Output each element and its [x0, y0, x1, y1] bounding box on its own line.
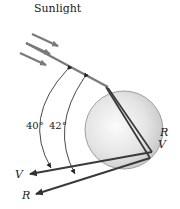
violet-back-label: V	[158, 138, 167, 151]
red-exit-label: R	[21, 189, 30, 202]
angle-42-label: 42°	[49, 120, 67, 131]
sunlight-rays	[20, 34, 108, 87]
violet-exit-label: V	[15, 168, 24, 181]
sunlight-label: Sunlight	[34, 2, 82, 15]
sun-ray-1	[32, 34, 58, 46]
arc-42-degrees	[64, 78, 84, 174]
angle-40-label: 40°	[26, 120, 44, 131]
arc-40-degrees	[40, 70, 67, 168]
diagram-canvas: Sunlight 40° 42° R V V R	[0, 0, 180, 209]
rainbow-diagram: Sunlight 40° 42° R V V R	[0, 0, 180, 209]
sun-ray-3	[20, 53, 46, 65]
incident-ray	[26, 43, 108, 87]
